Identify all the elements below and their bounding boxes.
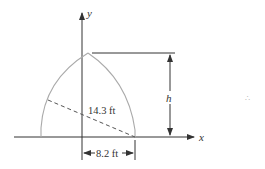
arch-left-curve bbox=[41, 53, 88, 137]
base-label: 8.2 ft bbox=[96, 148, 118, 159]
parabolic-arch-diagram: x y h 14.3 ft 8.2 ft ∴ bbox=[0, 0, 265, 169]
height-label: h bbox=[166, 92, 172, 104]
arch-right-curve bbox=[88, 53, 135, 137]
margin-mark: ∴ bbox=[245, 94, 250, 103]
diagonal-label: 14.3 ft bbox=[88, 105, 115, 116]
y-axis-label: y bbox=[86, 7, 92, 19]
x-axis-label: x bbox=[198, 131, 204, 143]
